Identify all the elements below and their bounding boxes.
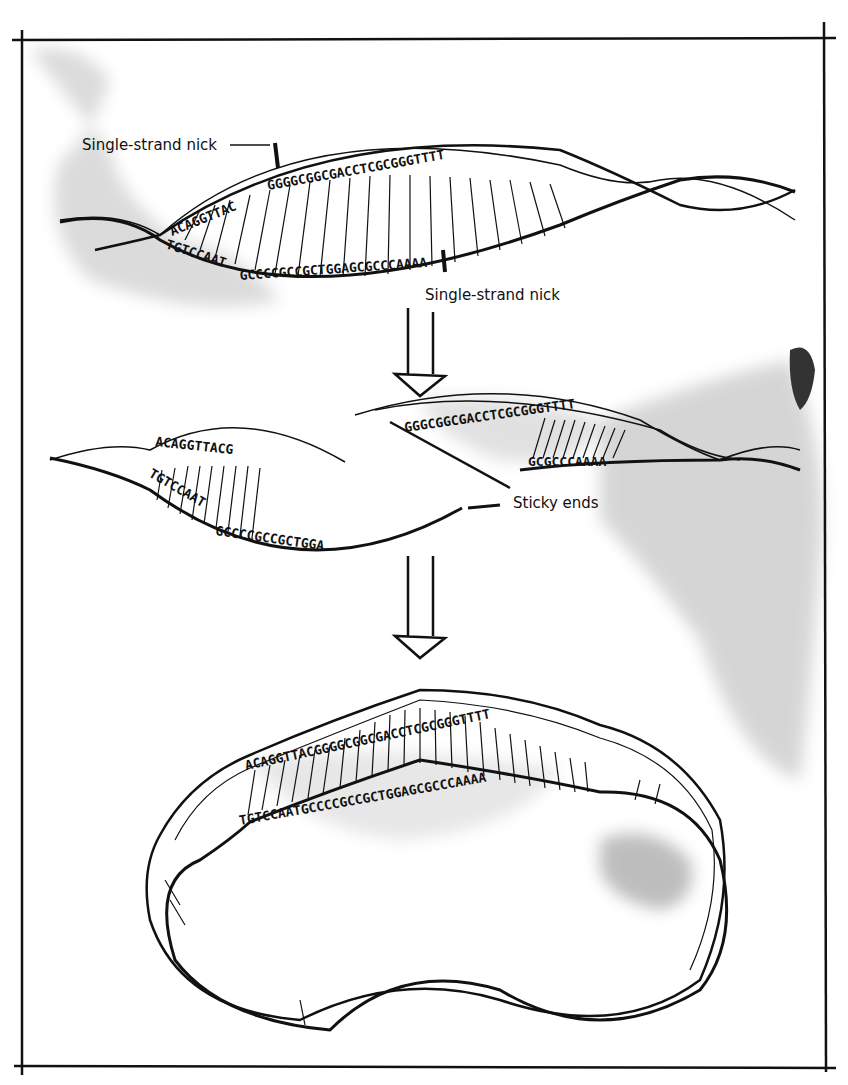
- left-top-strand: ACAGGTTACG: [155, 434, 235, 457]
- label-sticky-ends: Sticky ends: [513, 494, 599, 512]
- svg-text:ACAGGTTAC: ACAGGTTAC: [168, 198, 239, 238]
- label-nick-top: Single-strand nick: [82, 136, 217, 154]
- stage1-bottom-strand: GCCCCGCCGCTGGAGCGCCCAAAA: [239, 255, 428, 283]
- arrow-down-icon: [395, 556, 445, 658]
- left-bottom-strand: GCCCCGCCGCTGGA: [215, 523, 326, 553]
- label-nick-bottom: Single-strand nick: [425, 286, 560, 304]
- arrow-down-icon: [395, 308, 445, 396]
- dna-diagram: ACAGGTTAC GGGGCGGCGACCTCGCGGGTTTT TGTCCA…: [0, 0, 848, 1085]
- right-bottom-strand: GCGCCCAAAA: [528, 454, 606, 469]
